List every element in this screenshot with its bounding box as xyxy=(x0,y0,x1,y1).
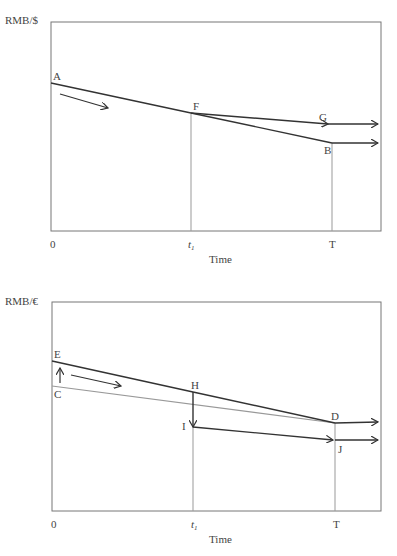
label-G: G xyxy=(319,111,327,123)
label-I: I xyxy=(182,420,186,432)
bottom-frame xyxy=(52,302,381,511)
top-x-axis-label: Time xyxy=(209,253,232,265)
top-y-axis-label: RMB/$ xyxy=(5,14,39,26)
arrow-D-right xyxy=(335,422,378,423)
line-F-B xyxy=(191,113,332,143)
bottom-x-axis-label: Time xyxy=(209,533,232,545)
bottom-chart: RMB/€ E C H I D J 0 t1 T Time xyxy=(5,295,381,545)
line-I-J xyxy=(193,427,333,440)
label-H: H xyxy=(191,379,199,391)
label-F: F xyxy=(193,100,199,112)
diagram-canvas: RMB/$ A F G B 0 t1 T Time RMB/€ xyxy=(0,0,397,556)
label-J: J xyxy=(338,443,343,455)
bottom-tick-T: T xyxy=(333,518,340,530)
line-E-H xyxy=(52,361,193,392)
drift-arrow-icon xyxy=(71,375,121,386)
label-D: D xyxy=(331,410,339,422)
label-B: B xyxy=(324,144,331,156)
label-E: E xyxy=(54,348,61,360)
top-tick-0: 0 xyxy=(50,238,56,250)
label-A: A xyxy=(53,70,61,82)
bottom-y-axis-label: RMB/€ xyxy=(5,295,39,307)
top-tick-T: T xyxy=(329,238,336,250)
bottom-tick-0: 0 xyxy=(51,518,57,530)
drift-arrow-icon xyxy=(60,94,108,108)
top-tick-t1: t1 xyxy=(188,238,195,252)
label-C: C xyxy=(54,388,61,400)
top-chart: RMB/$ A F G B 0 t1 T Time xyxy=(5,14,381,265)
bottom-tick-t1: t1 xyxy=(191,518,198,532)
line-F-G xyxy=(191,113,328,124)
